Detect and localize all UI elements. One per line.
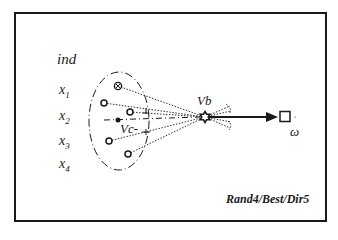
strategy-caption: Rand4/Best/Dir5 (226, 192, 309, 207)
row-label-sub: 2 (65, 116, 70, 126)
individual-marker (106, 138, 112, 144)
target-label: ω (290, 124, 299, 140)
row-label-x2: x2 (59, 108, 70, 126)
target-square-icon (280, 112, 290, 122)
row-label-sub: 1 (65, 90, 70, 100)
target-dot (294, 116, 295, 117)
row-label-x4: x4 (59, 156, 70, 174)
row-header-label: ind (57, 51, 76, 68)
individual-marker (125, 151, 131, 157)
centroid-label: Vc- (120, 121, 138, 137)
best-vector-star-icon (200, 112, 210, 123)
best-vector-label: Vb (197, 93, 211, 109)
row-label-sub: 4 (65, 164, 70, 174)
arrow-head-icon (266, 112, 278, 122)
row-label-x3: x3 (59, 133, 70, 151)
individual-best-marker (114, 82, 121, 89)
row-label-x1: x1 (59, 82, 70, 100)
individual-marker (127, 109, 133, 115)
row-label-sub: 3 (65, 141, 70, 151)
individual-marker (101, 100, 107, 106)
